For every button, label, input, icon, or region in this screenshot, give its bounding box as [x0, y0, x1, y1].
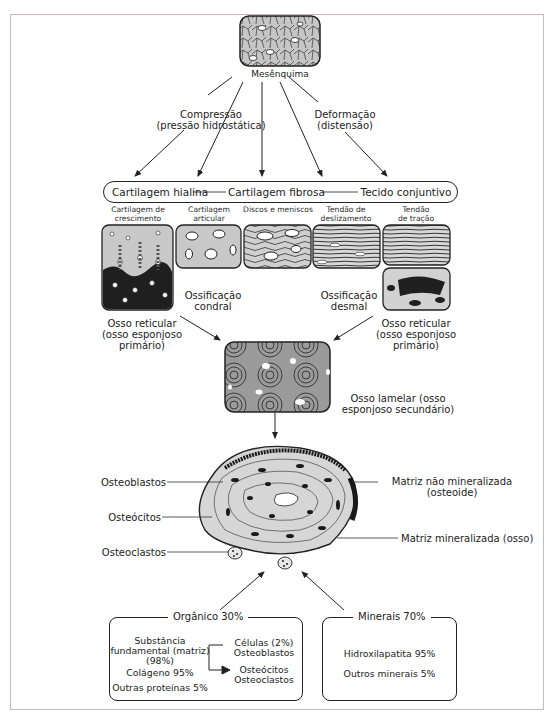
minerals-composition-box: Minerais 70% [322, 617, 457, 701]
force-deformation-line1: Deformação [300, 109, 390, 120]
spectrum-hyaline: Cartilagem hialina [112, 187, 194, 198]
woven-bone-line: primário) [100, 340, 184, 351]
ossification-desmal: Ossificação desmal [316, 290, 382, 312]
organic-bone-cells: Osteócitos Osteoclastos [226, 665, 302, 685]
force-deformation-line2: (distensão) [300, 120, 390, 131]
spectrum-fibrous: Cartilagem fibrosa [228, 187, 320, 198]
tissue-label-growth: Cartilagem de crescimento [100, 206, 176, 223]
force-compression-line1: Compressão [146, 109, 276, 120]
woven-bone-right: Osso reticular (osso esponjoso primário) [374, 318, 458, 351]
ossification-line: condral [178, 301, 248, 312]
tissue-label-line: crescimento [100, 215, 176, 224]
organic-title: Orgânico 30% [168, 611, 248, 623]
tissue-label-line: de tração [380, 215, 452, 224]
tissue-label-line: Discos e meniscos [240, 206, 316, 215]
ossification-line: desmal [316, 301, 382, 312]
lamellar-bone-label: Osso lamelar (osso esponjoso secundário) [340, 393, 456, 415]
mesenchyme-label: Mesênquima [248, 69, 312, 80]
minerals-title: Minerais 70% [353, 611, 431, 623]
composition-arrows [220, 572, 344, 610]
osteon-cross-section-icon [199, 446, 355, 569]
tissue-label-gliding-tendon: Tendão de deslizamento [310, 206, 382, 223]
organic-other-proteins: Outras proteínas 5% [110, 682, 210, 693]
minerals-hydroxyapatite: Hidroxilapatita 95% [324, 648, 455, 659]
matrix-line: Matriz não mineralizada [382, 476, 522, 487]
organic-cells: Células (2%) Osteoblastos [226, 638, 302, 658]
ossification-line: Ossificação [178, 290, 248, 301]
woven-bone-line: Osso reticular [374, 318, 458, 329]
lamellar-bone-line: esponjoso secundário) [340, 404, 456, 415]
force-deformation: Deformação (distensão) [300, 109, 390, 131]
lamellar-bone-line: Osso lamelar (osso [340, 393, 456, 404]
ossification-line: Ossificação [316, 290, 382, 301]
woven-bone-line: (osso esponjoso [100, 329, 184, 340]
woven-bone-line: (osso esponjoso [374, 329, 458, 340]
lamellar-bone-icon [225, 342, 330, 412]
tissue-label-line: deslizamento [310, 215, 382, 224]
spectrum-connective: Tecido conjuntivo [360, 187, 452, 198]
label-osteocytes: Osteócitos [86, 512, 161, 523]
minerals-other: Outros minerais 5% [324, 668, 455, 679]
label-osteoblasts: Osteoblastos [90, 477, 166, 488]
tissue-tiles [102, 225, 450, 310]
organic-cells-line: Osteoblastos [226, 648, 302, 658]
ossification-arrows [180, 316, 373, 340]
label-unmineralized-matrix: Matriz não mineralizada (osteoide) [382, 476, 522, 498]
label-mineralized-matrix: Matriz mineralizada (osso) [401, 533, 531, 544]
force-compression: Compressão (pressão hidrostática) [146, 109, 276, 131]
woven-bone-line: primário) [374, 340, 458, 351]
ossification-chondral: Ossificação condral [178, 290, 248, 312]
label-osteoclasts: Osteoclastos [90, 547, 166, 558]
matrix-line: (osteoide) [382, 487, 522, 498]
tissue-label-articular: Cartilagem articular [176, 206, 242, 223]
tissue-label-discs: Discos e meniscos [240, 206, 316, 215]
organic-matrix: Substância fundamental (matriz) (98%) [110, 636, 210, 666]
tissue-label-traction-tendon: Tendão de tração [380, 206, 452, 223]
organic-matrix-line: (98%) [110, 656, 210, 666]
mesenchyme-tissue-icon [240, 16, 320, 66]
organic-cells-line: Osteoclastos [226, 675, 302, 685]
organic-collagen: Colágeno 95% [110, 667, 210, 678]
woven-bone-left: Osso reticular (osso esponjoso primário) [100, 318, 184, 351]
woven-bone-line: Osso reticular [100, 318, 184, 329]
tissue-label-line: articular [176, 215, 242, 224]
force-compression-line2: (pressão hidrostática) [146, 120, 276, 131]
